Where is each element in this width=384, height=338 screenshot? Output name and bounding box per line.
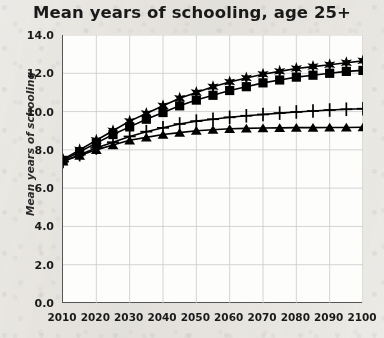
x-tick-label: 2030 <box>114 311 143 323</box>
x-tick-label: 2020 <box>81 311 110 323</box>
marker-square <box>308 71 317 80</box>
marker-square <box>325 69 334 78</box>
y-tick-label: 2.0 <box>20 258 54 271</box>
chart-figure: Mean years of schooling, age 25+ Mean ye… <box>0 0 384 338</box>
marker-square <box>242 82 251 91</box>
plot-area <box>62 35 362 303</box>
marker-square <box>292 73 301 82</box>
y-tick-label: 0.0 <box>20 297 54 310</box>
marker-square <box>142 115 151 124</box>
y-tick-label: 10.0 <box>20 105 54 118</box>
x-tick-label: 2050 <box>181 311 210 323</box>
y-tick-label: 14.0 <box>20 29 54 42</box>
y-tick-label: 6.0 <box>20 182 54 195</box>
x-tick-label: 2060 <box>214 311 243 323</box>
marker-square <box>342 67 351 76</box>
marker-square <box>158 108 167 117</box>
marker-square <box>192 95 201 104</box>
plot-canvas <box>63 35 363 303</box>
marker-square <box>208 91 217 100</box>
x-tick-label: 2090 <box>314 311 343 323</box>
marker-square <box>225 86 234 95</box>
x-axis-tick-labels: 2010202020302040205020602070208020902100 <box>0 311 384 329</box>
y-axis-tick-labels: 14.012.010.08.06.04.02.00.0 <box>20 0 54 338</box>
y-tick-label: 12.0 <box>20 67 54 80</box>
marker-square <box>258 78 267 87</box>
x-tick-label: 2010 <box>47 311 76 323</box>
marker-square <box>358 66 363 75</box>
marker-square <box>175 101 184 110</box>
y-tick-label: 4.0 <box>20 220 54 233</box>
x-tick-label: 2080 <box>281 311 310 323</box>
x-tick-label: 2100 <box>347 311 376 323</box>
marker-square <box>275 75 284 84</box>
x-tick-label: 2070 <box>247 311 276 323</box>
x-tick-label: 2040 <box>147 311 176 323</box>
chart-title: Mean years of schooling, age 25+ <box>0 3 384 22</box>
y-tick-label: 8.0 <box>20 143 54 156</box>
